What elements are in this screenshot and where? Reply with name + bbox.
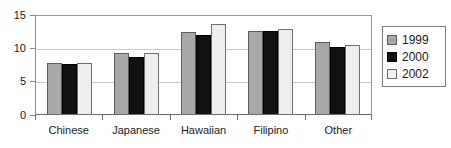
bar-group-japanese — [103, 16, 170, 114]
legend-item-1999[interactable]: 1999 — [387, 31, 441, 48]
bar-other-2000 — [330, 47, 345, 114]
y-axis: 15 10 5 0 — [0, 0, 30, 148]
grouped-bar-chart: 15 10 5 0 ChineseJapaneseHawaiianFilipin… — [0, 0, 451, 148]
x-axis-labels: ChineseJapaneseHawaiianFilipinoOther — [35, 124, 372, 142]
legend-item-2000[interactable]: 2000 — [387, 48, 441, 65]
bar-filipino-2000 — [263, 31, 278, 114]
bar-chinese-1999 — [47, 63, 62, 114]
legend-swatch-icon-2000 — [387, 52, 397, 62]
x-label-hawaiian: Hawaiian — [170, 124, 237, 142]
x-label-other: Other — [305, 124, 372, 142]
x-label-japanese: Japanese — [102, 124, 169, 142]
x-label-filipino: Filipino — [237, 124, 304, 142]
legend-swatch-icon-1999 — [387, 35, 397, 45]
y-tick-label-0: 0 — [20, 110, 26, 121]
bars-layer — [36, 16, 371, 114]
legend-label-1999: 1999 — [402, 34, 429, 46]
legend-label-2002: 2002 — [402, 68, 429, 80]
bar-hawaiian-2000 — [196, 35, 211, 114]
bar-group-hawaiian — [170, 16, 237, 114]
legend-label-2000: 2000 — [402, 51, 429, 63]
x-label-chinese: Chinese — [35, 124, 102, 142]
bar-hawaiian-1999 — [181, 32, 196, 114]
bar-group-filipino — [237, 16, 304, 114]
bar-japanese-1999 — [114, 53, 129, 114]
bar-other-1999 — [315, 42, 330, 114]
plot-area — [35, 15, 372, 115]
bar-japanese-2002 — [144, 53, 159, 114]
x-tick-mark-5 — [371, 115, 372, 120]
x-tick-mark-0 — [35, 115, 36, 120]
x-tick-mark-3 — [237, 115, 238, 120]
legend-swatch-icon-2002 — [387, 69, 397, 79]
bar-group-other — [304, 16, 371, 114]
x-tick-mark-4 — [305, 115, 306, 120]
x-tick-mark-1 — [102, 115, 103, 120]
bar-japanese-2000 — [129, 57, 144, 114]
x-tick-mark-2 — [170, 115, 171, 120]
x-axis-ticks — [35, 115, 372, 120]
bar-chinese-2000 — [62, 64, 77, 114]
bar-hawaiian-2002 — [211, 24, 226, 114]
y-tick-label-5: 5 — [20, 76, 26, 87]
legend: 1999 2000 2002 — [382, 26, 446, 87]
y-tick-label-10: 10 — [14, 43, 26, 54]
y-tick-label-15: 15 — [14, 10, 26, 21]
legend-item-2002[interactable]: 2002 — [387, 65, 441, 82]
bar-chinese-2002 — [77, 63, 92, 114]
bar-filipino-2002 — [278, 29, 293, 114]
bar-group-chinese — [36, 16, 103, 114]
bar-filipino-1999 — [248, 31, 263, 114]
bar-other-2002 — [345, 45, 360, 114]
